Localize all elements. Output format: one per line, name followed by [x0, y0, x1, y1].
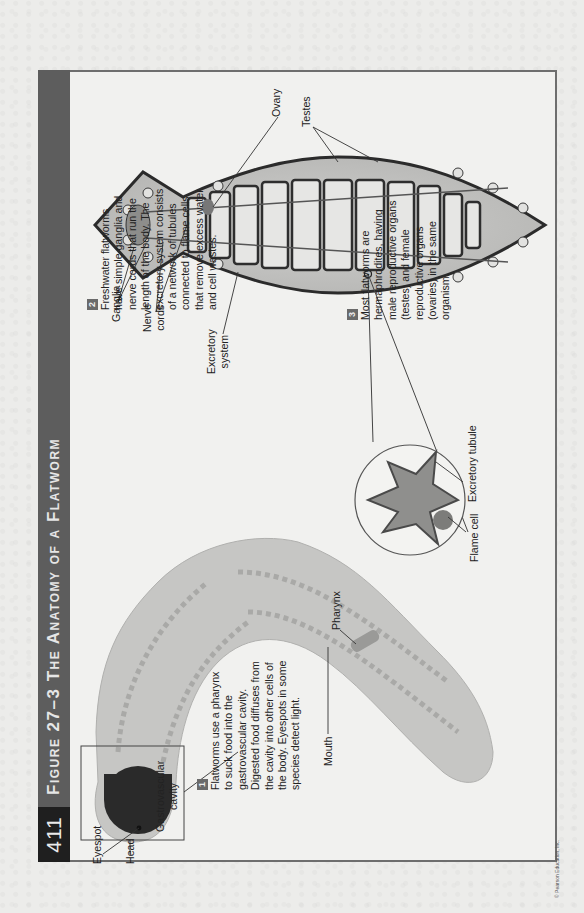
caption-2-line: that remove excess water	[193, 189, 205, 310]
figure-panel: 411 Figure 27–3 The Anatomy of a Flatwor…	[38, 70, 557, 862]
caption-1-line: the body. Eyespots in some	[276, 661, 288, 790]
label-ovary: Ovary	[270, 89, 283, 117]
caption-1-line: species detect light.	[289, 697, 301, 790]
label-pharynx: Pharynx	[330, 591, 343, 630]
caption-1-line: Flatworms use a pharynx	[209, 672, 221, 790]
caption-3-line: organism.	[439, 273, 451, 320]
caption-2-line: nerve cords that run the	[126, 198, 138, 310]
caption-1-line: gastrovascular cavity.	[236, 689, 248, 790]
label-gastrovascular-cavity: Gastrovascular cavity	[154, 761, 179, 832]
caption-3-line: male reproductive organs	[386, 200, 398, 320]
label-eyespot: Eyespot	[91, 826, 104, 864]
label-ganglia: Ganglia	[110, 285, 123, 322]
caption-2-line: length of the body. The	[139, 203, 151, 310]
label-nerve-cords: Nerve cords	[141, 304, 166, 332]
label-head: Head	[124, 839, 137, 864]
caption-2-line: of a network of tubules	[166, 203, 178, 310]
caption-1-line: the cavity into other cells of	[263, 662, 275, 790]
copyright-text: © Pearson Education, Inc.	[554, 840, 560, 898]
caption-3-line: (testes) and female	[399, 229, 411, 320]
caption-2-line: and cell wastes.	[206, 235, 218, 310]
label-line: Excretory	[205, 329, 217, 374]
caption-3-number-badge: 3	[347, 309, 358, 320]
label-line: system	[218, 335, 230, 369]
label-testes: Testes	[300, 96, 313, 127]
caption-3: 3 Most flatworms are hermaphrodites, hav…	[345, 150, 453, 320]
label-mouth: Mouth	[322, 737, 335, 766]
label-flame-cell: Flame cell	[468, 514, 481, 562]
caption-2-line: excretory system consists	[153, 189, 165, 310]
caption-3-line: Most flatworms are	[359, 231, 371, 320]
label-line: Gastrovascular	[154, 761, 166, 832]
label-line: cords	[154, 305, 166, 331]
label-line: Nerve	[141, 304, 153, 332]
caption-3-line: (ovaries) in the same	[426, 221, 438, 320]
copyright-notice: © Pearson Education, Inc.	[552, 818, 564, 898]
caption-2-line: connected to flame cells	[179, 196, 191, 310]
label-line: cavity	[167, 783, 179, 810]
caption-1-line: to suck food into the	[222, 695, 234, 790]
caption-1-line: Digested food diffuses from	[249, 661, 261, 790]
caption-2: 2 Freshwater flatworms have simple gangl…	[85, 130, 220, 310]
caption-1-number-badge: 1	[197, 779, 208, 790]
caption-3-line: reproductive organs	[413, 226, 425, 320]
caption-3-line: hermaphrodites, having	[372, 209, 384, 320]
label-excretory-system: Excretory system	[205, 329, 230, 374]
label-excretory-tubule: Excretory tubule	[466, 425, 479, 502]
caption-1: 1 Flatworms use a pharynx to suck food i…	[195, 620, 303, 790]
caption-2-number-badge: 2	[87, 299, 98, 310]
